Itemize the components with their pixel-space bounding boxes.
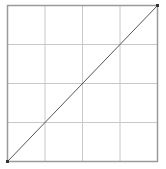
data-point-marker xyxy=(6,160,9,163)
data-point-marker xyxy=(156,4,159,7)
line-chart xyxy=(0,0,166,169)
